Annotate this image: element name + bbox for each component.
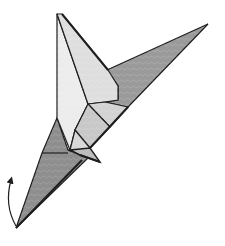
right-wing: [105, 24, 208, 107]
curved-arrow-icon: [8, 180, 16, 226]
origami-diagram: [0, 0, 225, 246]
